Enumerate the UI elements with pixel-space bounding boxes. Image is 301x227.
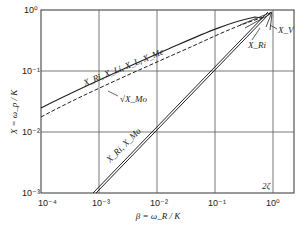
series-upper-solid xyxy=(41,17,262,108)
y-tick-1e-2: 10⁻² xyxy=(22,127,40,137)
label-steep-xri: X_Ri, X_Mo xyxy=(104,126,144,166)
y-tick-1e-1: 10⁻¹ xyxy=(22,66,40,76)
y-tick-1e0: 10⁰ xyxy=(24,5,38,15)
x-tick-1e0: 10⁰ xyxy=(266,198,280,208)
x-tick-1e-2: 10⁻² xyxy=(150,198,168,208)
label-upper-curve: X_Ri, X_Li, X_L, X_Me xyxy=(81,47,165,89)
label-xv: X_V xyxy=(277,25,295,35)
x-tick-1e-3: 10⁻³ xyxy=(92,198,110,208)
grid-lines xyxy=(41,10,294,193)
y-tick-1e-3: 10⁻³ xyxy=(22,188,40,198)
x-tick-1e-1: 10⁻¹ xyxy=(208,198,226,208)
dashed-label-leader xyxy=(108,91,118,96)
log-log-chart: 10⁰ 10⁻¹ 10⁻² 10⁻³ 10⁻⁴ 10⁻³ 10⁻² 10⁻¹ 1… xyxy=(0,0,301,227)
series-dashed xyxy=(41,17,264,117)
label-2zeta: 2ζ xyxy=(262,181,272,191)
y-axis-label: X = ω_p / K xyxy=(9,89,19,135)
label-dashed-curve: √X_Mo xyxy=(120,94,147,104)
x-tick-1e-4: 10⁻⁴ xyxy=(38,198,57,208)
label-xri: X_Ri xyxy=(247,40,266,50)
x-axis-ticks: 10⁻⁴ 10⁻³ 10⁻² 10⁻¹ 10⁰ xyxy=(38,198,280,208)
x-axis-label: β = ω_R / K xyxy=(135,211,181,221)
xv-leader xyxy=(270,25,277,29)
plot-frame xyxy=(41,10,294,193)
y-axis-ticks: 10⁰ 10⁻¹ 10⁻² 10⁻³ xyxy=(22,5,40,198)
